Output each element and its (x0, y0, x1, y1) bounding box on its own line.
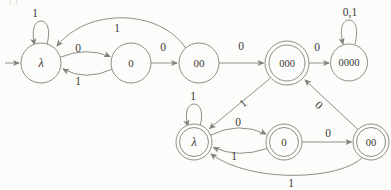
state-bottom-00: 00 (353, 124, 389, 160)
automaton-figure: ( ) 1 0 1 0 1 0 0 0,1 1 1 0 1 0 0 1 λ 0 … (0, 0, 391, 190)
edge-label-top-0-to-lambda: 1 (75, 75, 81, 87)
state-bottom-00-label: 00 (366, 137, 377, 148)
corner-mark: ( ) (9, 0, 17, 6)
edge-label-bottom-lambda-self: 1 (190, 90, 196, 102)
edge-label-top-0000-self: 0,1 (343, 6, 358, 19)
state-top-00-label: 00 (194, 57, 206, 69)
edge-label-000-to-bottom-lambda: 1 (237, 96, 249, 109)
state-top-0: 0 (111, 43, 151, 83)
edge-self-loop-bottom-lambda (186, 104, 201, 126)
edge-label-top-lambda-self: 1 (32, 7, 38, 19)
state-top-0000: 0000 (331, 44, 368, 81)
edge-self-loop-top-0000 (341, 20, 356, 44)
state-top-00: 00 (179, 43, 219, 83)
edge-bottom-0-to-bottom-lambda (214, 148, 268, 154)
edge-label-bottom-0-to-00: 0 (325, 127, 331, 139)
state-top-000: 000 (265, 41, 309, 85)
edge-bottom-lambda-to-bottom-0 (210, 128, 266, 136)
edge-label-top-lambda-to-0: 0 (75, 42, 81, 54)
edge-top-lambda-to-top-0 (60, 52, 111, 58)
edge-top-0-to-top-lambda (63, 69, 113, 75)
state-top-lambda: λ (21, 43, 61, 83)
automaton-diagram: ( ) 1 0 1 0 1 0 0 0,1 1 1 0 1 0 0 1 λ 0 … (0, 0, 391, 190)
state-top-0000-label: 0000 (339, 57, 360, 68)
edge-bottom-00-to-top-000 (305, 80, 358, 130)
state-bottom-lambda-label: λ (190, 135, 196, 149)
state-top-0-label: 0 (128, 57, 134, 69)
edge-label-bottom-00-to-000: 0 (313, 99, 325, 112)
state-bottom-lambda: λ (176, 124, 212, 160)
state-bottom-0: 0 (266, 124, 302, 160)
edge-label-top-0-to-00: 0 (160, 41, 166, 53)
edge-label-top-000-to-0000: 0 (314, 41, 320, 53)
state-top-lambda-label: λ (37, 56, 43, 70)
edge-label-bottom-0-to-lambda: 1 (231, 150, 237, 162)
edge-label-bottom-00-to-lambda: 1 (288, 177, 294, 189)
edge-label-top-00-to-lambda: 1 (114, 22, 120, 34)
state-top-000-label: 000 (279, 58, 295, 69)
edge-label-top-00-to-000: 0 (238, 40, 244, 52)
edge-self-loop-top-lambda (33, 21, 48, 45)
state-bottom-0-label: 0 (281, 136, 287, 148)
edge-label-bottom-lambda-to-0: 0 (235, 116, 241, 128)
